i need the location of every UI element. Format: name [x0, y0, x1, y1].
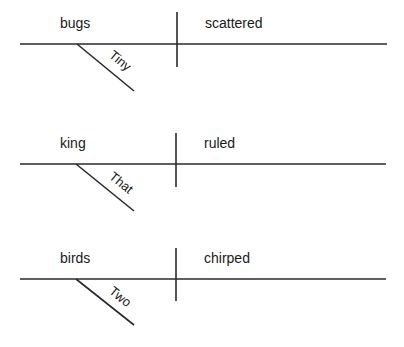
subject-word: bugs	[60, 15, 90, 31]
sentence-diagram-3: birds chirped Two	[0, 235, 404, 345]
sentence-diagram-2: king ruled That	[0, 120, 404, 230]
predicate-word: scattered	[205, 15, 263, 31]
predicate-word: chirped	[204, 250, 250, 266]
predicate-word: ruled	[204, 135, 235, 151]
sentence-diagram-1: bugs scattered Tiny	[0, 0, 404, 110]
subject-word: birds	[60, 250, 90, 266]
subject-word: king	[60, 135, 86, 151]
